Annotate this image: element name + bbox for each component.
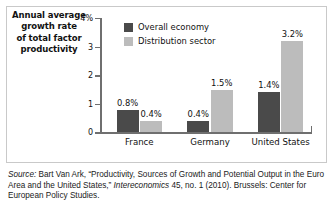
source-journal: Intereconomics xyxy=(114,181,170,190)
plot-area: 01234% Overall economy Distribution sect… xyxy=(100,18,312,134)
x-label-germany: Germany xyxy=(190,137,230,147)
y-tick-mark-0 xyxy=(95,132,101,133)
source-note: Source: Bart Van Ark, “Productivity, Sou… xyxy=(8,170,326,202)
bar-france-series-1[interactable]: 0.8% xyxy=(117,110,139,133)
bars-layer: 0.8%0.4%0.4%1.5%1.4%3.2% xyxy=(100,18,312,132)
bar-united-states-series-1[interactable]: 1.4% xyxy=(258,92,280,132)
x-label-france: France xyxy=(125,137,154,147)
y-tick-label-4: 4% xyxy=(80,14,93,23)
chart-title: Annual average growth rate of total fact… xyxy=(10,10,88,55)
x-axis-line xyxy=(100,132,312,134)
bar-value-label: 3.2% xyxy=(282,29,303,39)
bar-value-label: 0.4% xyxy=(140,109,161,119)
bar-value-label: 0.8% xyxy=(117,98,138,108)
chart-title-line-3: of total factor xyxy=(10,33,88,44)
y-tick-label-1: 1 xyxy=(88,99,93,108)
bar-value-label: 0.4% xyxy=(188,109,209,119)
chart-title-line-4: productivity xyxy=(10,44,88,55)
figure-root: Annual average growth rate of total fact… xyxy=(0,0,333,210)
bar-germany-series-1[interactable]: 0.4% xyxy=(187,121,209,132)
bar-united-states-series-2[interactable]: 3.2% xyxy=(281,41,303,133)
bar-france-series-2[interactable]: 0.4% xyxy=(140,121,162,132)
x-axis-labels: FranceGermanyUnited States xyxy=(100,137,312,151)
bar-value-label: 1.5% xyxy=(211,78,232,88)
chart-title-line-2: growth rate xyxy=(10,21,88,32)
chart-title-line-1: Annual average xyxy=(10,10,88,21)
y-tick-label-0: 0 xyxy=(88,128,93,137)
bar-value-label: 1.4% xyxy=(258,80,279,90)
bar-germany-series-2[interactable]: 1.5% xyxy=(211,90,233,133)
source-label: Source: xyxy=(8,170,36,179)
x-label-united-states: United States xyxy=(252,137,310,147)
y-tick-label-2: 2 xyxy=(88,71,93,80)
y-tick-label-3: 3 xyxy=(88,42,93,51)
